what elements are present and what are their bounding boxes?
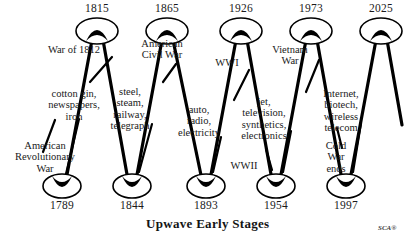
- trough-node-1954: [257, 174, 295, 198]
- trough-year-label-1789: 1789: [32, 199, 92, 211]
- peak-nodes: [76, 18, 402, 44]
- trough-node-1893: [187, 174, 225, 198]
- leader-line-wwii: [266, 149, 272, 170]
- figure-title: Upwave Early Stages: [146, 216, 269, 232]
- tech-label-steel-steam-railway-telegraph: steel, steam, railway, telegraph: [98, 86, 162, 131]
- event-label-vietnam-war: Vietnam War: [261, 44, 319, 67]
- peak-node-2025: [360, 18, 402, 44]
- trough-node-1997: [327, 174, 365, 198]
- event-label-american-civil-war: American Civil War: [127, 38, 197, 61]
- leader-line-war-of-1812: [90, 57, 112, 82]
- tech-label-jet-television-synthetics-electronics: jet, television, synthetics, electronics: [227, 96, 301, 141]
- trough-node-1844: [113, 174, 151, 198]
- trough-year-label-1954: 1954: [246, 199, 306, 211]
- peak-year-label-2025: 2025: [351, 2, 411, 14]
- leader-line-american-civil-war: [163, 64, 176, 82]
- event-label-wwii: WWII: [222, 160, 266, 171]
- peak-year-label-1926: 1926: [211, 2, 271, 14]
- peak-node-1815: [76, 18, 118, 44]
- peak-year-label-1815: 1815: [67, 2, 127, 14]
- event-label-war-of-1812: War of 1812: [30, 44, 118, 55]
- trough-node-1789: [43, 174, 81, 198]
- tech-label-auto-radio-electricity: auto, radio, electricity: [164, 104, 234, 138]
- event-label-american-revolutionary-war: American Revolutionary War: [4, 140, 86, 174]
- trough-year-label-1997: 1997: [316, 199, 376, 211]
- event-label-cold-war-ends: Cold War ends: [318, 140, 354, 174]
- upwave-diagram: 1815 1865 1926 1973 2025 1789 1844 1893 …: [0, 0, 412, 241]
- source-mark: SCA®: [378, 224, 396, 232]
- peak-year-label-1973: 1973: [281, 2, 341, 14]
- tech-label-internet-biotech-wireless-telecom: Internet, biotech, wireless telecom: [308, 88, 374, 133]
- trough-year-label-1844: 1844: [102, 199, 162, 211]
- event-label-wwi: WWI: [205, 57, 249, 68]
- peak-node-1926: [220, 18, 262, 44]
- trough-nodes: [43, 174, 365, 198]
- peak-year-label-1865: 1865: [137, 2, 197, 14]
- leader-line-auto-radio: [213, 137, 221, 172]
- trough-year-label-1893: 1893: [176, 199, 236, 211]
- peak-node-1973: [290, 18, 332, 44]
- wave-segment-2025-onward: [387, 40, 402, 125]
